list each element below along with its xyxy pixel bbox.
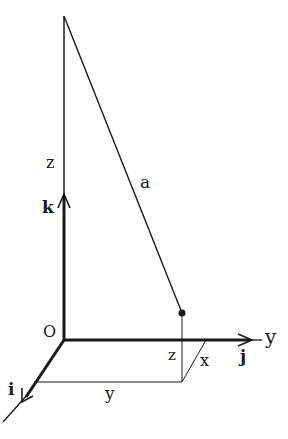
unit-i-label: i [8,379,15,399]
x-axis-line [3,394,28,422]
y-axis-label: y [264,325,277,349]
x-component-label: x [200,351,209,370]
z-axis-label: z [46,153,54,172]
i-unit-vector [26,340,64,397]
vector-diagram: z a k O y j z x i y [0,0,288,439]
unit-k-label: k [42,197,55,217]
vector-a-label: a [140,172,150,192]
unit-j-label: j [238,346,246,366]
vector-a-line [64,16,182,313]
z-component-label: z [168,346,176,364]
origin-label: O [43,322,56,341]
y-component-label: y [104,383,115,403]
